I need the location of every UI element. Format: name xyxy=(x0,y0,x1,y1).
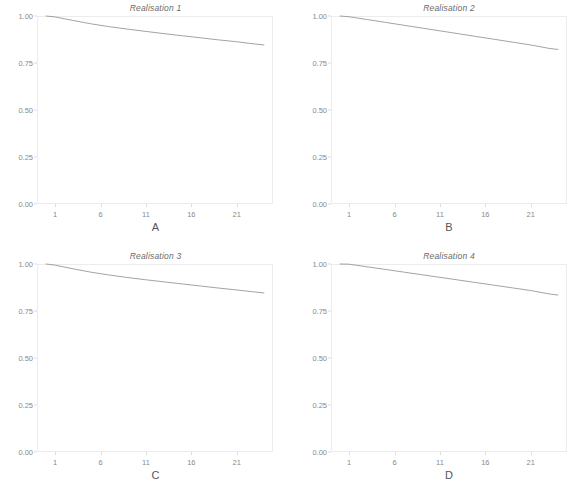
figure-grid: Realisation 1 0.000.250.500.751.00161116… xyxy=(0,0,587,496)
chart-panel-d: Realisation 4 0.000.250.500.751.00161116… xyxy=(293,248,587,496)
series-line xyxy=(0,248,293,496)
panel-letter: C xyxy=(0,469,293,481)
panel-letter: D xyxy=(293,469,587,481)
axis-layer: 0.000.250.500.751.0016111621 xyxy=(0,248,293,496)
panel-letter: A xyxy=(0,221,293,233)
series-line xyxy=(293,0,587,248)
series-line xyxy=(293,248,587,496)
axis-layer: 0.000.250.500.751.0016111621 xyxy=(293,0,587,248)
panel-letter: B xyxy=(293,221,587,233)
chart-panel-b: Realisation 2 0.000.250.500.751.00161116… xyxy=(293,0,587,248)
chart-panel-a: Realisation 1 0.000.250.500.751.00161116… xyxy=(0,0,293,248)
axis-layer: 0.000.250.500.751.0016111621 xyxy=(0,0,293,248)
series-line xyxy=(0,0,293,248)
chart-panel-c: Realisation 3 0.000.250.500.751.00161116… xyxy=(0,248,293,496)
axis-layer: 0.000.250.500.751.0016111621 xyxy=(293,248,587,496)
